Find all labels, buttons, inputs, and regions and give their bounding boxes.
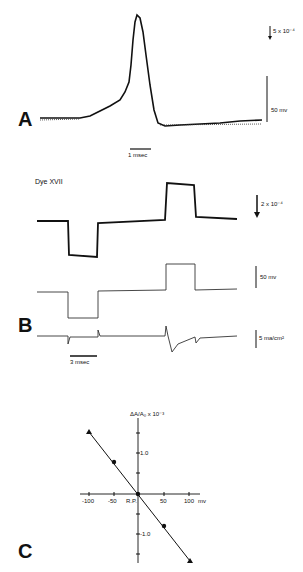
panel-c-label: C	[18, 540, 32, 563]
panel-a-label: A	[18, 108, 32, 131]
panel-c-xtick-100: 100	[184, 498, 194, 504]
panel-b-voltage-scale-label: 50 mv	[260, 274, 276, 280]
panel-b-title: Dye XVII	[35, 178, 63, 185]
panel-c-ylabel: ΔA/A₀ x 10⁻³	[130, 410, 164, 417]
panel-a-optical-scale-label: 5 x 10⁻⁴	[273, 27, 295, 34]
panel-c-ytick-1: 1.0	[140, 450, 148, 456]
panel-a-time-scale-label: 1 msec	[128, 152, 147, 158]
panel-c-xtick-50: 50	[160, 498, 167, 504]
panel-b-voltage-trace	[37, 264, 237, 318]
panel-c-axes	[80, 418, 200, 563]
panel-c-xtick-neg100: -100	[82, 498, 94, 504]
panel-b-optical-trace	[37, 183, 237, 257]
panel-b-current-trace	[37, 326, 237, 352]
panel-b-optical-scale-label: 2 x 10⁻⁴	[261, 200, 283, 207]
panel-c-xtick-neg50: -50	[108, 498, 117, 504]
panel-c-xtick-rp: R.P.	[126, 498, 137, 504]
panel-a-trace	[40, 15, 262, 126]
panel-b-label: B	[18, 314, 32, 337]
figure-canvas	[0, 0, 303, 572]
panel-b-time-scale-label: 3 msec	[70, 359, 89, 365]
panel-a-voltage-scale-label: 50 mv	[271, 107, 287, 113]
panel-c-xunit: mv	[198, 498, 206, 504]
panel-b-current-scale-label: 5 ma/cm²	[259, 335, 284, 341]
panel-c-ytick-neg1: -1.0	[140, 531, 150, 537]
